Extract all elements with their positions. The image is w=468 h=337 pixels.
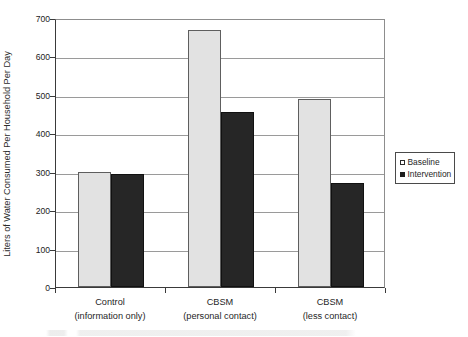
- x-tick-mark: [275, 288, 276, 293]
- x-axis-group-label: CBSM(personal contact): [165, 296, 275, 323]
- bar-baseline: [78, 172, 111, 287]
- y-tick-label: 500: [24, 92, 50, 101]
- y-tick-label: 400: [24, 130, 50, 139]
- caption-remnant: [46, 330, 406, 336]
- bar-chart: Liters of Water Consumed Per Household P…: [0, 0, 468, 337]
- x-label-line2: (information only): [55, 310, 165, 324]
- legend-item-label: Baseline: [408, 156, 440, 168]
- x-label-line1: CBSM: [207, 297, 234, 307]
- y-tick-label: 200: [24, 207, 50, 216]
- x-label-line1: Control: [95, 297, 125, 307]
- y-tick-label: 0: [24, 284, 50, 293]
- x-label-line1: CBSM: [317, 297, 344, 307]
- y-tick-label: 700: [24, 15, 50, 24]
- legend-item: Baseline: [400, 156, 451, 168]
- x-label-line2: (personal contact): [165, 310, 275, 324]
- bar-baseline: [298, 99, 331, 287]
- bar-intervention: [111, 174, 144, 287]
- x-axis-group-label: Control(information only): [55, 296, 165, 323]
- plot-area: [55, 19, 385, 288]
- y-tick-label: 300: [24, 168, 50, 177]
- x-axis-group-label: CBSM(less contact): [275, 296, 385, 323]
- x-label-line2: (less contact): [275, 310, 385, 324]
- bar-intervention: [331, 183, 364, 287]
- x-tick-mark: [385, 288, 386, 293]
- x-tick-mark: [55, 288, 56, 293]
- y-tick-label: 100: [24, 245, 50, 254]
- bar-baseline: [188, 30, 221, 287]
- y-tick-label: 600: [24, 53, 50, 62]
- legend-item: Intervention: [400, 168, 451, 180]
- open-square-icon: [400, 160, 405, 165]
- x-tick-mark: [165, 288, 166, 293]
- bar-intervention: [221, 112, 254, 287]
- legend: BaselineIntervention: [395, 152, 455, 184]
- y-axis-ticks: 0100200300400500600700: [0, 0, 50, 337]
- legend-item-label: Intervention: [408, 168, 452, 180]
- filled-square-icon: [400, 172, 405, 177]
